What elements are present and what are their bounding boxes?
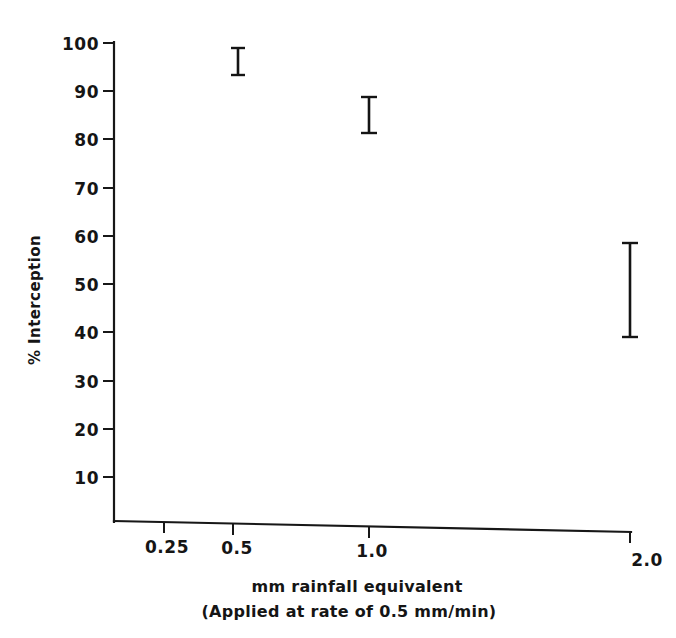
interception-error-bar-chart: 100 90 80 70 60 50 40 30 20 10 % Interce…	[0, 0, 676, 638]
y-tick-label-70: 70	[74, 179, 99, 199]
y-tick-label-50: 50	[74, 275, 99, 295]
x-axis-subtitle: (Applied at rate of 0.5 mm/min)	[201, 602, 496, 621]
y-tick-label-80: 80	[74, 130, 99, 150]
y-axis-title: % Interception	[26, 235, 44, 365]
y-tick-label-100: 100	[62, 34, 99, 54]
x-tick-label-2.0: 2.0	[631, 550, 663, 570]
error-bar-2.0	[622, 243, 638, 337]
x-tick-label-0.5: 0.5	[221, 538, 253, 558]
x-tick-label-1.0: 1.0	[356, 541, 388, 561]
x-axis-line	[114, 521, 631, 532]
x-axis-title: mm rainfall equivalent	[251, 577, 462, 596]
error-bar-0.5	[231, 48, 245, 75]
data-series-interception	[231, 48, 638, 337]
y-tick-label-90: 90	[74, 82, 99, 102]
error-bar-1.0	[361, 97, 377, 133]
y-axis-group: 100 90 80 70 60 50 40 30 20 10 % Interce…	[26, 34, 114, 522]
x-tick-label-0.25: 0.25	[145, 537, 189, 557]
y-tick-label-60: 60	[74, 227, 99, 247]
figure-container: 100 90 80 70 60 50 40 30 20 10 % Interce…	[0, 0, 676, 638]
y-tick-label-40: 40	[74, 323, 99, 343]
y-tick-label-30: 30	[74, 372, 99, 392]
y-tick-label-20: 20	[74, 420, 99, 440]
x-axis-group: 0.25 0.5 1.0 2.0 mm rainfall equivalent …	[114, 521, 663, 621]
y-tick-label-10: 10	[74, 468, 99, 488]
